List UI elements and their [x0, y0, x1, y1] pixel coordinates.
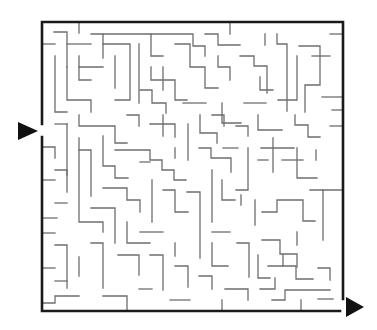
maze-wall [175, 266, 188, 287]
maze-wall [103, 44, 130, 100]
maze-wall [260, 278, 275, 289]
maze-wall [151, 67, 187, 100]
maze-walls [42, 22, 343, 311]
maze-wall [225, 289, 248, 300]
maze-wall [175, 44, 218, 88]
maze-wall [199, 148, 231, 172]
maze-wall [150, 255, 163, 290]
maze-wall [268, 266, 313, 279]
maze-wall [55, 56, 67, 112]
maze-wall [42, 147, 55, 158]
maze-wall [236, 126, 248, 136]
maze-wall [295, 115, 320, 137]
maze-outer-wall [42, 137, 340, 311]
maze-wall [140, 90, 166, 113]
maze-wall [54, 32, 67, 67]
maze-wall [42, 296, 79, 303]
maze-wall [79, 56, 91, 80]
maze-wall [91, 243, 103, 288]
maze-wall [79, 150, 91, 196]
exit-arrow-icon [346, 297, 364, 317]
maze-board [0, 0, 377, 330]
maze-wall [236, 148, 248, 190]
maze-wall [55, 170, 67, 192]
maze-wall [262, 200, 315, 221]
maze-wall [222, 180, 235, 200]
entrance-arrow-icon [18, 122, 38, 140]
maze-border [42, 22, 343, 311]
maze-wall [91, 34, 205, 56]
maze-wall [200, 115, 217, 143]
maze-wall [118, 255, 139, 275]
maze-wall [103, 296, 127, 311]
maze-wall [212, 243, 228, 266]
maze-wall [199, 276, 212, 289]
maze-wall [258, 115, 282, 130]
maze-wall [79, 34, 103, 67]
maze-wall [262, 240, 297, 267]
maze-wall [318, 268, 330, 280]
maze-wall [237, 243, 249, 277]
maze-wall [151, 34, 163, 56]
maze-wall [297, 148, 317, 178]
maze-wall [240, 56, 267, 93]
maze-wall [127, 115, 139, 126]
maze-wall [163, 190, 188, 212]
maze-wall [187, 192, 200, 258]
maze-wall [218, 56, 230, 80]
maze-wall [222, 103, 241, 123]
maze-wall [205, 34, 240, 45]
